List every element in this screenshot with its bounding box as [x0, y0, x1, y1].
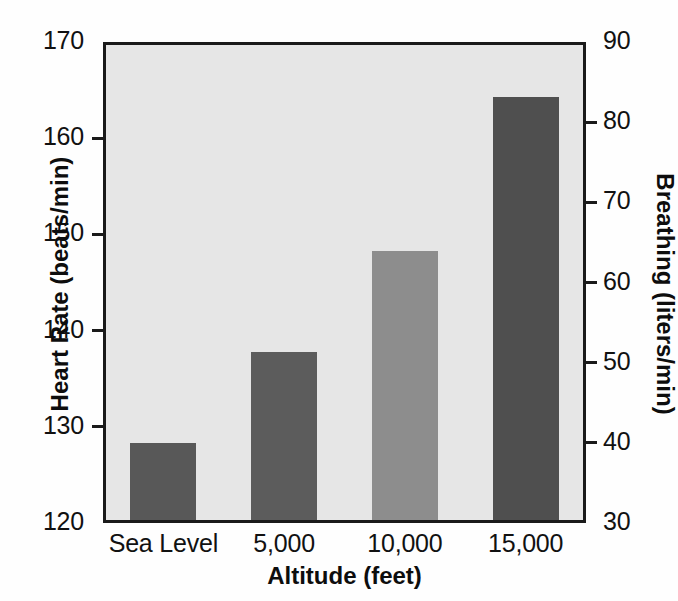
right-axis-tick-label: 70 [603, 186, 630, 215]
x-axis-title: Altitude (feet) [103, 562, 586, 590]
right-axis-title: Breathing (liters/min) [651, 129, 678, 459]
right-axis-tick-mark [586, 201, 597, 204]
left-axis-tick-mark [92, 233, 103, 236]
left-axis-tick-label: 170 [0, 26, 84, 55]
x-axis-tick-label: 15,000 [446, 529, 606, 558]
chart-figure: 170160150140130120 90807060504030 Sea Le… [0, 0, 678, 601]
left-axis-tick-mark [92, 137, 103, 140]
left-axis-tick-label: 120 [0, 507, 84, 536]
right-axis-tick-label: 90 [603, 26, 630, 55]
right-axis-tick-mark [586, 441, 597, 444]
right-axis-tick-mark [586, 361, 597, 364]
bar [251, 352, 317, 520]
left-axis-tick-mark [92, 329, 103, 332]
right-axis-tick-label: 60 [603, 267, 630, 296]
right-axis-tick-label: 80 [603, 106, 630, 135]
right-axis-tick-label: 40 [603, 427, 630, 456]
left-axis-title: Heart Rate (beats/min) [46, 119, 74, 449]
bar [372, 251, 438, 520]
bar [493, 97, 559, 520]
right-axis-tick-mark [586, 281, 597, 284]
left-axis-tick-mark [92, 425, 103, 428]
right-axis-tick-mark [586, 121, 597, 124]
right-axis-tick-label: 30 [603, 507, 630, 536]
bar [130, 443, 196, 520]
plot-area [103, 42, 586, 523]
right-axis-tick-label: 50 [603, 347, 630, 376]
bars-layer [106, 45, 583, 520]
